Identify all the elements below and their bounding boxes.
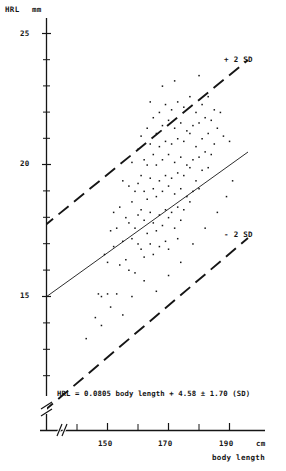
scatter-point [186, 164, 188, 166]
scatter-point [113, 246, 115, 248]
scatter-point [201, 104, 203, 106]
x-axis-title: body length [212, 454, 265, 462]
scatter-point [217, 212, 219, 214]
scatter-point [128, 185, 130, 187]
scatter-point [171, 177, 173, 179]
scatter-point [174, 80, 176, 82]
scatter-point [140, 175, 142, 177]
scatter-point [229, 141, 231, 143]
scatter-point [159, 146, 161, 148]
scatter-point [143, 159, 145, 161]
scatter-point [150, 243, 152, 245]
scatter-point [85, 338, 87, 340]
scatter-point [150, 101, 152, 103]
scatter-point [180, 220, 182, 222]
lower-sd-band-label: - 2 SD [224, 231, 253, 239]
scatter-point [137, 214, 139, 216]
scatter-point [223, 135, 225, 137]
scatter-point [137, 183, 139, 185]
scatter-point [153, 222, 155, 224]
scatter-point [122, 314, 124, 316]
scatter-point [134, 191, 136, 193]
scatter-point [128, 222, 130, 224]
y-axis-unit: mm [32, 6, 42, 14]
scatter-point [150, 177, 152, 179]
scatter-point [146, 198, 148, 200]
x-axis-tick-label: 190 [219, 440, 233, 448]
scatter-point [204, 151, 206, 153]
x-axis-tick-label: 150 [98, 440, 112, 448]
scatter-point [189, 167, 191, 169]
y-axis-tick-label: 25 [20, 30, 30, 38]
y-axis-tick-label: 20 [20, 160, 30, 168]
scatter-point [198, 156, 200, 158]
scatter-point [162, 85, 164, 87]
scatter-point [125, 217, 127, 219]
y-axis-break-mark [41, 402, 52, 416]
scatter-point [113, 212, 115, 214]
scatter-point [168, 120, 170, 122]
scatter-point [174, 127, 176, 129]
scatter-point [201, 170, 203, 172]
scatter-point [140, 209, 142, 211]
scatter-point [180, 122, 182, 124]
scatter-point [143, 280, 145, 282]
scatter-point [150, 143, 152, 145]
scatter-point [174, 162, 176, 164]
scatter-point [171, 143, 173, 145]
scatter-point [195, 180, 197, 182]
scatter-point [204, 117, 206, 119]
scatter-point [159, 214, 161, 216]
scatter-point [140, 135, 142, 137]
x-axis-tick-label: 170 [158, 440, 172, 448]
scatter-point [226, 196, 228, 198]
scatter-point [186, 130, 188, 132]
scatter-point [119, 264, 121, 266]
scatter-point [101, 325, 103, 327]
scatter-point [168, 154, 170, 156]
scatter-point [107, 262, 109, 264]
scatter-point [177, 101, 179, 103]
scatter-point [156, 230, 158, 232]
scatter-point [192, 191, 194, 193]
scatter-point [146, 164, 148, 166]
scatter-point [107, 293, 109, 295]
scatter-point [180, 262, 182, 264]
scatter-point [211, 154, 213, 156]
scatter-point [177, 206, 179, 208]
scatter-point [195, 112, 197, 114]
scatter-point [214, 109, 216, 111]
scatter-point [131, 238, 133, 240]
scatter-point [171, 109, 173, 111]
regression-equation-annotation: HRL = 0.0805 body length + 4.58 ± 1.70 (… [57, 390, 250, 397]
scatter-point [134, 227, 136, 229]
scatter-point [220, 112, 222, 114]
scatter-point-group [85, 75, 233, 340]
upper-sd-band-label: + 2 SD [224, 56, 253, 64]
upper-sd-band-line [43, 60, 248, 227]
scatter-point [165, 241, 167, 243]
scatter-point [146, 127, 148, 129]
scatter-point [143, 256, 145, 258]
scatter-point [101, 296, 103, 298]
scatter-point [150, 212, 152, 214]
scatter-point [180, 156, 182, 158]
scatter-point [207, 167, 209, 169]
scatter-point [214, 143, 216, 145]
scatter-point [110, 230, 112, 232]
scatter-point [198, 75, 200, 77]
scatter-point [116, 293, 118, 295]
scatter-point [165, 209, 167, 211]
scatter-point [153, 188, 155, 190]
scatter-point [189, 133, 191, 135]
scatter-point [137, 149, 139, 151]
scatter-point [134, 272, 136, 274]
scatter-point [195, 146, 197, 148]
scatter-point [146, 233, 148, 235]
scatter-point [159, 112, 161, 114]
scatter-point [165, 175, 167, 177]
scatter-point [189, 201, 191, 203]
scatter-point [119, 206, 121, 208]
scatter-point [153, 254, 155, 256]
scatter-point [137, 243, 139, 245]
